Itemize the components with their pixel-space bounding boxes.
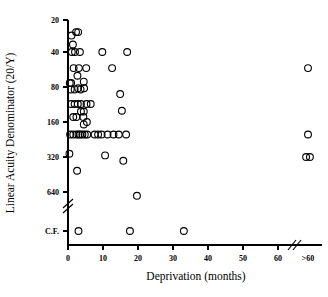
- x-tick-label: 60: [274, 254, 282, 263]
- data-point: [180, 228, 187, 235]
- y-axis-title: Linear Acuity Denominator (20/Y): [4, 53, 17, 214]
- data-point: [305, 131, 312, 138]
- data-point: [87, 101, 94, 108]
- scatter-plot-figure: 204080160320640C.F. 0102030405060>60 Dep…: [0, 0, 328, 297]
- y-tick-label-cf: C.F.: [45, 227, 59, 236]
- data-point: [70, 41, 77, 48]
- y-tick-label: 40: [51, 48, 59, 57]
- x-tick-label: 10: [99, 254, 107, 263]
- data-point: [74, 167, 81, 174]
- x-axis-title: Deprivation (months): [146, 270, 245, 283]
- data-point: [75, 228, 82, 235]
- data-point: [80, 78, 87, 85]
- x-tick-label: 30: [169, 254, 177, 263]
- data-point: [99, 49, 106, 56]
- data-point: [127, 228, 134, 235]
- data-point: [120, 157, 127, 164]
- x-axis-ticks: 0102030405060>60: [66, 245, 314, 263]
- data-point: [117, 91, 124, 98]
- data-points-layer: [66, 29, 313, 235]
- data-point: [77, 49, 84, 56]
- data-point: [68, 32, 75, 39]
- y-tick-label: 640: [47, 188, 59, 197]
- x-tick-label-gt60: >60: [302, 254, 315, 263]
- x-tick-label: 50: [239, 254, 247, 263]
- x-tick-label: 0: [66, 254, 70, 263]
- data-point: [74, 72, 81, 79]
- data-point: [109, 65, 116, 72]
- data-point: [102, 152, 109, 159]
- data-point: [119, 107, 126, 114]
- y-tick-label: 20: [51, 16, 59, 25]
- data-point: [124, 49, 131, 56]
- y-axis-ticks: 204080160320640C.F.: [45, 16, 68, 236]
- y-tick-label: 160: [47, 118, 59, 127]
- data-point: [134, 192, 141, 199]
- data-point: [66, 150, 73, 157]
- data-point: [83, 65, 90, 72]
- data-point: [123, 131, 130, 138]
- y-tick-label: 320: [47, 153, 59, 162]
- y-tick-label: 80: [51, 83, 59, 92]
- data-point: [305, 65, 312, 72]
- plot-canvas: 204080160320640C.F. 0102030405060>60 Dep…: [0, 0, 328, 297]
- x-tick-label: 40: [204, 254, 212, 263]
- x-tick-label: 20: [134, 254, 142, 263]
